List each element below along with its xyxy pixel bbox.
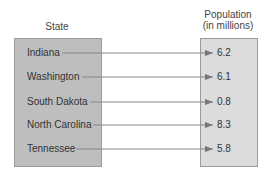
mapping-arrows [0, 0, 272, 177]
